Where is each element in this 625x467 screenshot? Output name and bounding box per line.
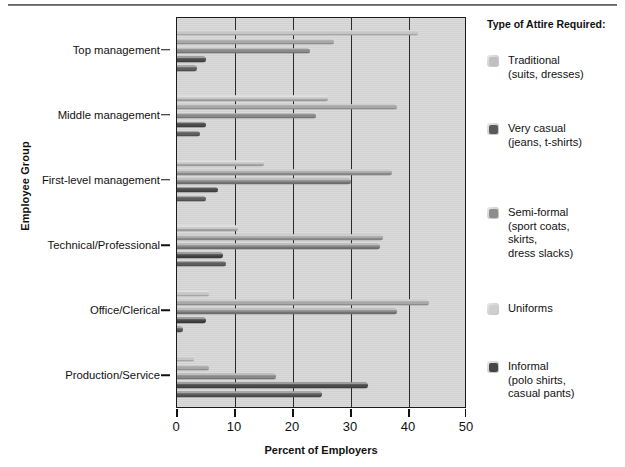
- gridline: [293, 18, 294, 407]
- x-axis-tick-label: 0: [172, 419, 179, 434]
- y-axis-tick-mark: [161, 179, 170, 181]
- x-axis-tick-label: 40: [401, 419, 415, 434]
- x-axis-tick-label: 50: [459, 419, 473, 434]
- x-axis-tick-label: 30: [343, 419, 357, 434]
- bar: [177, 252, 223, 258]
- legend: Type of Attire Required: Traditional (su…: [487, 18, 622, 418]
- gridline: [235, 18, 236, 407]
- x-axis-tick-mark: [176, 409, 178, 417]
- legend-swatch-icon: [487, 207, 499, 219]
- bar: [177, 66, 197, 72]
- bar: [177, 261, 226, 267]
- x-axis-tick-label: 20: [285, 419, 299, 434]
- x-axis-tick-mark: [408, 409, 410, 417]
- bar: [177, 317, 206, 323]
- legend-swatch-icon: [487, 303, 499, 315]
- bar: [177, 131, 200, 137]
- bar: [177, 113, 316, 119]
- bar: [177, 160, 264, 166]
- x-axis-title: Percent of Employers: [176, 444, 466, 456]
- bar: [177, 225, 238, 231]
- legend-swatch-icon: [487, 123, 499, 135]
- legend-label: Semi-formal (sport coats, skirts, dress …: [508, 206, 573, 260]
- x-axis-tick-mark: [292, 409, 294, 417]
- legend-label: Uniforms: [508, 302, 553, 316]
- x-axis-tick-mark: [350, 409, 352, 417]
- y-axis-tick-mark: [161, 114, 170, 116]
- bar: [177, 122, 206, 128]
- legend-title: Type of Attire Required:: [487, 18, 605, 30]
- header-divider: [8, 4, 617, 6]
- bar: [177, 187, 218, 193]
- y-axis-tick-label: Office/Clerical: [0, 304, 160, 316]
- y-axis-tick-label: Production/Service: [0, 369, 160, 381]
- y-axis-tick-mark: [161, 375, 170, 377]
- gridline: [351, 18, 352, 407]
- bar: [177, 178, 351, 184]
- bar: [177, 57, 206, 63]
- y-axis-tick-labels: Top managementMiddle managementFirst-lev…: [20, 17, 170, 408]
- plot-area: [176, 17, 466, 408]
- x-axis-tick-label: 10: [227, 419, 241, 434]
- bar: [177, 383, 368, 389]
- bar: [177, 39, 334, 45]
- bar: [177, 291, 209, 297]
- legend-label: Informal (polo shirts, casual pants): [508, 360, 575, 401]
- y-axis-tick-mark: [161, 244, 170, 246]
- plot-texture: [177, 18, 465, 407]
- bar: [177, 391, 322, 397]
- legend-swatch-icon: [487, 361, 499, 373]
- bar: [177, 30, 418, 36]
- y-axis-tick-label: Top management: [0, 44, 160, 56]
- x-axis-tick-mark: [234, 409, 236, 417]
- y-axis-tick-mark: [161, 49, 170, 51]
- x-axis-ticks: [176, 409, 466, 417]
- legend-swatch-icon: [487, 55, 499, 67]
- y-axis-tick-label: Technical/Professional: [0, 239, 160, 251]
- bar: [177, 243, 380, 249]
- bar: [177, 169, 392, 175]
- bar: [177, 374, 276, 380]
- bar: [177, 326, 183, 332]
- bar: [177, 365, 209, 371]
- legend-label: Very casual (jeans, t-shirts): [508, 122, 582, 149]
- bar: [177, 196, 206, 202]
- bar: [177, 95, 328, 101]
- bar: [177, 300, 429, 306]
- bar: [177, 308, 397, 314]
- y-axis-tick-label: First-level management: [0, 174, 160, 186]
- x-axis-tick-mark: [465, 409, 467, 417]
- y-axis-tick-mark: [161, 310, 170, 312]
- gridline: [409, 18, 410, 407]
- bar: [177, 234, 383, 240]
- y-axis-tick-label: Middle management: [0, 109, 160, 121]
- chart-figure: Employee Group Top managementMiddle mana…: [0, 0, 625, 467]
- legend-label: Traditional (suits, dresses): [508, 54, 584, 81]
- x-axis-tick-labels: 01020304050: [176, 419, 466, 437]
- bar: [177, 356, 194, 362]
- bar: [177, 104, 397, 110]
- bar: [177, 48, 310, 54]
